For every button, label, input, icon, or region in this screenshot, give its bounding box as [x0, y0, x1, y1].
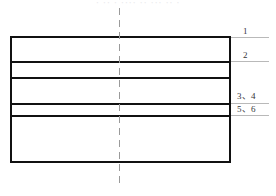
callout-label-4: 5、6 — [237, 104, 256, 114]
callout-label-3: 3、4 — [237, 91, 256, 101]
leader-line-4 — [231, 115, 269, 116]
layer-divider-1 — [10, 61, 231, 63]
callout-label-2: 2 — [243, 50, 248, 60]
callout-label-1: 1 — [243, 26, 248, 36]
leader-line-1 — [231, 37, 269, 38]
vertical-centerline — [119, 8, 120, 188]
leader-line-2 — [231, 61, 269, 62]
layer-divider-3 — [10, 103, 231, 105]
section-outline-rect — [10, 36, 231, 163]
cross-section-figure: · ·· · ···· ·· ··· ·· · 1 2 3、4 5、6 — [0, 0, 276, 196]
layer-divider-4 — [10, 115, 231, 117]
layer-divider-2 — [10, 77, 231, 79]
cropped-top-text: · ·· · ···· ·· ··· ·· · — [0, 0, 276, 8]
